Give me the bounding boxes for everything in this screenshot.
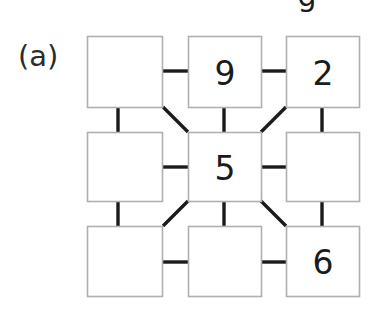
connector-diag-r1c1-r2c2	[163, 107, 188, 132]
grid-cell-r1c2[interactable]: 9	[189, 37, 262, 108]
grid-cell-r1c1[interactable]	[88, 37, 163, 108]
grid-cell-r3c1[interactable]	[88, 227, 163, 297]
grid-diagram-canvas: g (a)	[0, 0, 384, 316]
cell-value-r1c3: 2	[313, 54, 334, 93]
grid-cell-r2c1[interactable]	[88, 133, 163, 202]
cell-box-r3c1	[88, 227, 163, 297]
cell-value-r1c2: 9	[215, 54, 236, 93]
connector-diag-r2c2-r3c1	[163, 201, 188, 226]
grid-cell-r2c2[interactable]: 5	[189, 133, 262, 202]
cell-box-r3c2	[189, 227, 262, 297]
cell-group: 9 2 5	[88, 37, 360, 297]
figure-panel-a: g (a)	[0, 0, 384, 316]
cell-value-r2c2: 5	[215, 149, 236, 188]
connector-diag-r2c2-r3c3	[261, 201, 286, 226]
grid-cell-r3c2[interactable]	[189, 227, 262, 297]
cell-value-r3c3: 6	[313, 243, 334, 282]
connector-diag-r1c3-r2c2	[261, 107, 286, 132]
grid-cell-r3c3[interactable]: 6	[287, 227, 360, 297]
cell-box-r2c1	[88, 133, 163, 202]
panel-label: (a)	[18, 39, 58, 73]
cell-box-r2c3	[287, 133, 360, 202]
grid-cell-r1c3[interactable]: 2	[287, 37, 360, 108]
grid-cell-r2c3[interactable]	[287, 133, 360, 202]
clipped-top-glyph: g	[297, 0, 316, 13]
cell-box-r1c1	[88, 37, 163, 108]
